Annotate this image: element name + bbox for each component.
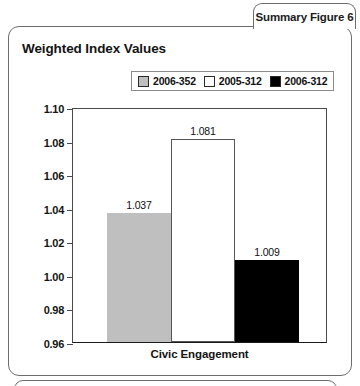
y-axis-tick-mark bbox=[67, 143, 73, 144]
x-axis-category-label: Civic Engagement bbox=[72, 348, 327, 360]
bar bbox=[235, 260, 299, 342]
y-axis-tick-label: 1.04 bbox=[44, 204, 64, 216]
bar-value-label: 1.009 bbox=[254, 246, 279, 258]
next-figure-panel bbox=[14, 380, 337, 386]
y-axis-tick-label: 0.96 bbox=[44, 338, 64, 350]
bar bbox=[171, 139, 235, 342]
legend-swatch-icon bbox=[270, 76, 281, 87]
legend-item[interactable]: 2006-312 bbox=[270, 75, 328, 87]
y-axis-tick-label: 1.02 bbox=[44, 237, 64, 249]
y-axis-tick-label: 1.00 bbox=[44, 271, 64, 283]
y-axis-tick-label: 1.06 bbox=[44, 170, 64, 182]
bar bbox=[107, 213, 171, 342]
y-axis-tick-mark bbox=[67, 210, 73, 211]
legend-label: 2005-312 bbox=[219, 75, 262, 87]
y-axis-tick-label: 1.08 bbox=[44, 137, 64, 149]
legend-label: 2006-312 bbox=[285, 75, 328, 87]
y-axis-tick-mark bbox=[67, 310, 73, 311]
y-axis-tick-label: 0.98 bbox=[44, 304, 64, 316]
y-axis-tick-mark bbox=[67, 344, 73, 345]
bar-value-label: 1.081 bbox=[190, 125, 215, 137]
y-axis-tick-mark bbox=[67, 176, 73, 177]
summary-figure-tab[interactable]: Summary Figure 6 bbox=[253, 3, 356, 29]
page-title: Weighted Index Values bbox=[22, 41, 166, 56]
figure-screenshot: Summary Figure 6 Weighted Index Values 2… bbox=[0, 0, 360, 386]
y-axis-tick-label: 1.10 bbox=[44, 103, 64, 115]
chart-legend: 2006-3522005-3122006-312 bbox=[131, 71, 334, 91]
y-axis-tick-mark bbox=[67, 109, 73, 110]
legend-swatch-icon bbox=[138, 76, 149, 87]
legend-swatch-icon bbox=[204, 76, 215, 87]
legend-item[interactable]: 2006-352 bbox=[138, 75, 196, 87]
legend-item[interactable]: 2005-312 bbox=[204, 75, 262, 87]
legend-label: 2006-352 bbox=[153, 75, 196, 87]
plot-area: 1.101.081.061.041.021.000.980.961.0371.0… bbox=[72, 108, 327, 343]
bar-value-label: 1.037 bbox=[126, 199, 151, 211]
y-axis-tick-mark bbox=[67, 277, 73, 278]
y-axis-tick-mark bbox=[67, 243, 73, 244]
summary-figure-tab-label: Summary Figure 6 bbox=[256, 11, 354, 23]
